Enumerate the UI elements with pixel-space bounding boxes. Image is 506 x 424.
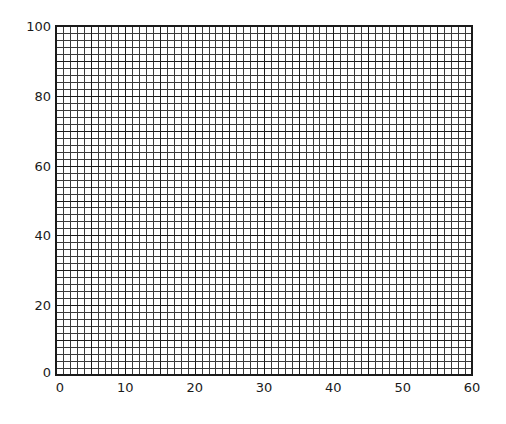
x-tick-label: 10 <box>117 380 134 395</box>
x-tick-label: 50 <box>394 380 411 395</box>
y-axis-tick-labels: 020406080100 <box>26 19 51 380</box>
y-tick-label: 60 <box>34 159 51 174</box>
y-tick-label: 20 <box>34 298 51 313</box>
x-tick-label: 0 <box>56 380 64 395</box>
x-tick-label: 40 <box>325 380 342 395</box>
y-tick-label: 40 <box>34 228 51 243</box>
y-tick-label: 100 <box>26 19 51 34</box>
graph-paper-chart: 0102030405060 020406080100 <box>0 0 506 424</box>
y-tick-label: 80 <box>34 89 51 104</box>
x-tick-label: 20 <box>186 380 203 395</box>
y-tick-label: 0 <box>43 365 51 380</box>
x-axis-tick-labels: 0102030405060 <box>56 380 480 395</box>
x-tick-label: 60 <box>464 380 481 395</box>
x-tick-label: 30 <box>256 380 273 395</box>
